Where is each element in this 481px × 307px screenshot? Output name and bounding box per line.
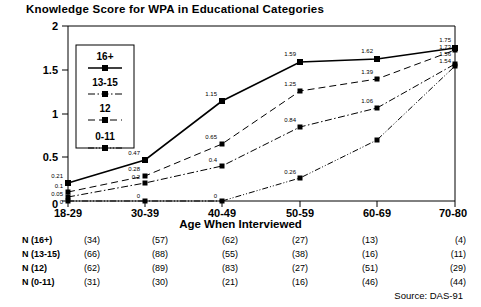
data-label-13-15-3: 1.25 [284,81,296,87]
x-tick-label-0: 18-29 [54,207,82,218]
n-cell-16plus-0: (34) [84,233,124,247]
chart-legend: 16+ 13-15 12 0-11 [76,45,134,151]
data-label-12-3: 0.84 [284,117,296,123]
data-label-16plus-0: 0.21 [51,173,63,179]
data-label-0-11-5: 1.54 [439,58,451,64]
data-label-16plus-5: 1.75 [439,37,451,43]
data-label-16plus-4: 1.62 [361,48,373,54]
legend-label-16plus: 16+ [97,51,114,62]
n-cell-0-11-3: (16) [292,275,332,289]
n-cell-0-11-2: (21) [222,275,262,289]
data-label-16plus-1: 0.47 [128,150,140,156]
x-tick-label-3: 50-59 [286,207,314,218]
n-cell-13-15-5: (11) [430,247,466,261]
n-cell-13-15-4: (16) [362,247,402,261]
n-cell-16plus-4: (13) [362,233,402,247]
n-cell-12-0: (62) [84,261,124,275]
x-tick-label-2: 40-49 [208,207,236,218]
data-label-0-11-0: 0 [60,199,64,205]
chart-title: Knowledge Score for WPA in Educational C… [26,3,324,15]
source-note: Source: DAS-91 [394,290,463,301]
data-label-16plus-3: 1.59 [284,51,296,57]
n-cell-12-3: (27) [292,261,332,275]
n-cell-13-15-1: (88) [152,247,192,261]
data-label-13-15-0: 0.1 [55,183,64,189]
n-cell-13-15-0: (66) [84,247,124,261]
n-row-label-12: N (12) [22,261,80,275]
x-tick-label-4: 60-69 [363,207,391,218]
n-cell-0-11-1: (30) [152,275,192,289]
x-axis-ticks [68,201,455,207]
data-label-12-5: 1.56 [439,51,451,57]
y-tick-label-0_5: 0.5 [43,151,58,163]
legend-label-13-15: 13-15 [92,77,118,88]
n-cell-12-1: (89) [152,261,192,275]
n-cell-16plus-5: (4) [430,233,466,247]
n-cell-16plus-3: (27) [292,233,332,247]
n-row-label-0-11: N (0-11) [22,275,80,289]
data-label-12-0: 0.05 [51,191,63,197]
data-label-13-15-1: 0.28 [128,166,140,172]
n-cell-12-5: (29) [430,261,466,275]
legend-label-12: 12 [99,103,111,114]
x-tick-label-1: 30-39 [131,207,159,218]
data-label-12-2: 0.4 [209,157,218,163]
legend-label-0-11: 0-11 [95,131,115,142]
x-tick-label-5: 70-80 [439,207,467,218]
data-label-16plus-2: 1.15 [205,91,217,97]
chart-plot-area: 2 1.5 1 0.5 0 [0,18,481,218]
data-label-13-15-2: 0.65 [205,134,217,140]
n-cell-0-11-0: (31) [84,275,124,289]
n-cell-12-2: (83) [222,261,262,275]
data-label-0-11-1: 0 [137,193,141,199]
x-axis-title: Age When Interviewed [0,218,481,230]
y-tick-label-2: 2 [52,20,58,32]
n-cell-12-4: (51) [362,261,402,275]
y-tick-label-1_5: 1.5 [43,64,58,76]
n-cell-16plus-1: (57) [152,233,192,247]
n-cell-0-11-4: (46) [362,275,402,289]
data-label-0-11-3: 0.26 [284,169,296,175]
y-tick-label-1: 1 [52,108,58,120]
n-cell-13-15-2: (55) [222,247,262,261]
data-label-12-1: 0.2 [132,174,141,180]
line-chart-svg: 2 1.5 1 0.5 0 [0,18,481,218]
n-cell-13-15-3: (38) [292,247,332,261]
data-label-13-15-5: 1.73 [439,44,451,50]
n-row-label-16plus: N (16+) [22,233,80,247]
n-cell-16plus-2: (62) [222,233,262,247]
n-cell-0-11-5: (44) [430,275,466,289]
data-label-13-15-4: 1.39 [361,69,373,75]
n-row-label-13-15: N (13-15) [22,247,80,261]
data-label-12-4: 1.06 [361,98,373,104]
data-label-0-11-2: 0 [214,193,218,199]
